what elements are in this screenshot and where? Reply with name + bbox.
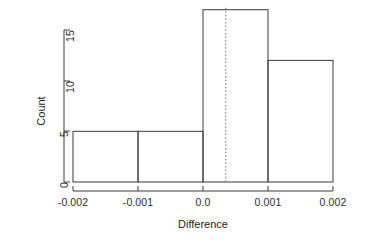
- x-tick-label: -0.001: [123, 196, 153, 208]
- y-axis-title: Count: [35, 96, 47, 125]
- x-tick-label: -0.002: [58, 196, 88, 208]
- x-axis-title: Difference: [178, 218, 228, 230]
- plot-area: [0, 0, 365, 243]
- x-tick-label: 0.002: [320, 196, 347, 208]
- histogram-chart: 15 10 5 0 -0.002 -0.001 0.0 0.001 0.002 …: [0, 0, 365, 243]
- y-tick-label: 0: [58, 182, 70, 188]
- histogram-bar: [203, 10, 268, 182]
- histogram-bar: [73, 131, 138, 182]
- x-tick-label: 0.001: [255, 196, 282, 208]
- y-tick-label: 10: [64, 81, 76, 93]
- x-axis: [73, 186, 333, 191]
- histogram-bar: [138, 131, 203, 182]
- y-axis: [64, 30, 70, 182]
- bars-group: [73, 10, 333, 182]
- x-tick-label: 0.0: [196, 196, 211, 208]
- y-tick-label: 5: [58, 131, 70, 137]
- y-tick-label: 15: [64, 30, 76, 42]
- histogram-bar: [268, 60, 333, 182]
